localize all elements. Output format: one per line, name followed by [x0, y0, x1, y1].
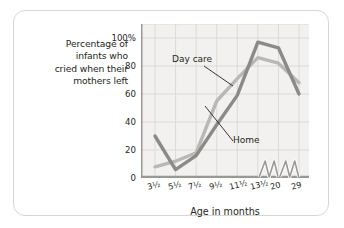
- axis-break-marks: [259, 161, 299, 177]
- series-label-home: Home: [233, 135, 260, 145]
- x-axis-title: Age in months: [141, 206, 309, 217]
- chart-figure: Percentage of infants who cried when the…: [0, 0, 344, 228]
- annotation-leader-lines: [204, 66, 233, 141]
- y-tick-80: 80: [102, 61, 136, 71]
- y-axis-title-line-4: mothers left: [24, 75, 128, 87]
- series-label-day-care: Day care: [172, 54, 212, 64]
- plot-area: [141, 24, 309, 178]
- y-tick-100%: 100%: [102, 33, 136, 43]
- y-tick-20: 20: [102, 145, 136, 155]
- y-tick-40: 40: [102, 117, 136, 127]
- plot-svg: [141, 24, 309, 178]
- y-tick-60: 60: [102, 89, 136, 99]
- y-tick-0: 0: [102, 173, 136, 183]
